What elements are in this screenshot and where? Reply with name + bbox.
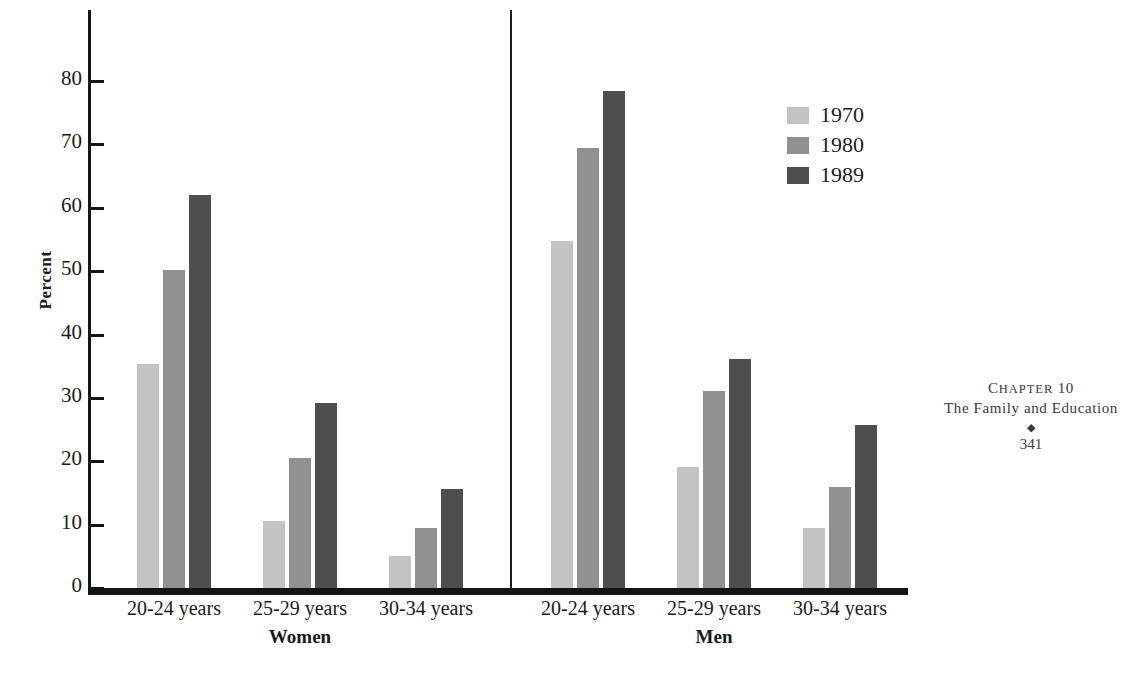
bars-layer — [0, 0, 1133, 678]
bar-men-25-29-years-1989 — [729, 359, 751, 588]
bar-men-30-34-years-1989 — [855, 425, 877, 588]
bar-men-20-24-years-1970 — [551, 241, 573, 588]
category-label-women-2: 30-34 years — [346, 597, 506, 620]
legend-label-1989: 1989 — [820, 164, 864, 186]
bar-women-20-24-years-1970 — [137, 364, 159, 588]
group-label-men: Men — [624, 626, 804, 648]
bar-men-25-29-years-1970 — [677, 467, 699, 588]
legend-label-1970: 1970 — [820, 104, 864, 126]
legend-swatch-1989-icon — [787, 167, 809, 184]
running-head-chapter-smallcaps: HAPTER — [999, 382, 1054, 396]
bar-women-30-34-years-1989 — [441, 489, 463, 588]
bar-men-20-24-years-1989 — [603, 91, 625, 588]
running-head-chapter-cap: C — [988, 380, 999, 396]
running-head: CHAPTER 10 The Family and Education ◆ 34… — [933, 380, 1129, 453]
bar-men-20-24-years-1980 — [577, 148, 599, 588]
legend-label-1980: 1980 — [820, 134, 864, 156]
diamond-ornament-icon: ◆ — [933, 421, 1129, 434]
bar-women-25-29-years-1970 — [263, 521, 285, 588]
bar-men-30-34-years-1980 — [829, 487, 851, 588]
page-folio: 341 — [933, 436, 1129, 453]
bar-men-25-29-years-1980 — [703, 391, 725, 588]
running-head-chapter-number: 10 — [1058, 380, 1074, 396]
group-label-women: Women — [210, 626, 390, 648]
bar-women-30-34-years-1980 — [415, 528, 437, 588]
bar-chart-figure: Percent 80706050403020100 20-24 years25-… — [0, 0, 1133, 678]
legend-swatch-1980-icon — [787, 137, 809, 154]
running-head-chapter: CHAPTER 10 — [933, 380, 1129, 397]
category-label-men-2: 30-34 years — [760, 597, 920, 620]
bar-women-30-34-years-1970 — [389, 556, 411, 588]
legend-item: 1970 — [787, 100, 864, 130]
legend-item: 1989 — [787, 160, 864, 190]
running-head-title: The Family and Education — [933, 400, 1129, 417]
bar-women-25-29-years-1989 — [315, 403, 337, 588]
legend-item: 1980 — [787, 130, 864, 160]
bar-men-30-34-years-1970 — [803, 528, 825, 588]
legend-swatch-1970-icon — [787, 107, 809, 124]
bar-women-20-24-years-1980 — [163, 270, 185, 588]
legend: 1970 1980 1989 — [787, 100, 864, 190]
bar-women-25-29-years-1980 — [289, 458, 311, 588]
bar-women-20-24-years-1989 — [189, 195, 211, 588]
